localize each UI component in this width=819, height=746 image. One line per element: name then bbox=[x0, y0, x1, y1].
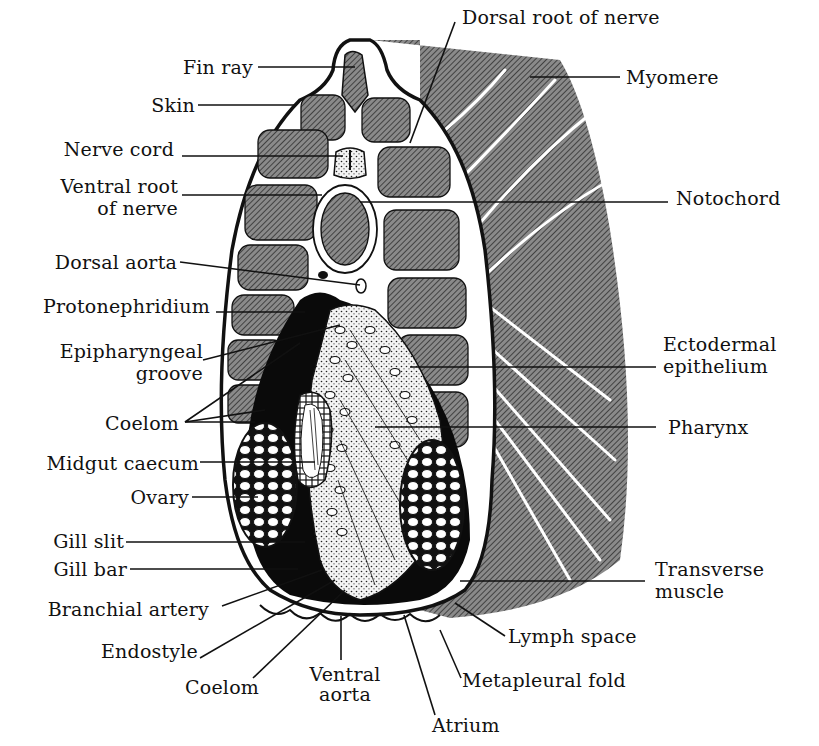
label-gill-slit: Gill slit bbox=[53, 530, 124, 552]
label-epipharyngeal-groove: Epipharyngeal groove bbox=[60, 340, 203, 384]
label-coelom-lower: Coelom bbox=[185, 676, 259, 698]
label-endostyle: Endostyle bbox=[101, 640, 198, 662]
label-protonephridium: Protonephridium bbox=[43, 295, 210, 317]
ovary-shape-left bbox=[233, 423, 297, 547]
label-branchial-artery: Branchial artery bbox=[48, 598, 209, 620]
nerve-cord-shape bbox=[334, 148, 366, 179]
label-lymph-space: Lymph space bbox=[508, 625, 637, 647]
label-nerve-cord: Nerve cord bbox=[64, 138, 174, 160]
notochord-shape bbox=[313, 185, 377, 273]
label-dorsal-root-of-nerve: Dorsal root of nerve bbox=[462, 6, 660, 28]
label-transverse-line2: muscle bbox=[655, 580, 764, 602]
label-ventral-aorta-line1: Ventral bbox=[305, 664, 385, 684]
label-transverse-muscle: Transverse muscle bbox=[655, 558, 764, 602]
label-fin-ray: Fin ray bbox=[183, 56, 253, 78]
label-ventral-aorta-line2: aorta bbox=[305, 684, 385, 704]
label-ventral-root-line2: of nerve bbox=[60, 197, 178, 219]
label-atrium: Atrium bbox=[432, 714, 500, 736]
label-ectodermal-line2: epithelium bbox=[663, 355, 777, 377]
ovary-shape-right bbox=[400, 440, 464, 570]
label-ventral-root-of-nerve: Ventral root of nerve bbox=[60, 175, 178, 219]
label-epipharyngeal-line2: groove bbox=[60, 362, 203, 384]
label-ovary: Ovary bbox=[131, 486, 189, 508]
label-pharynx: Pharynx bbox=[668, 416, 749, 438]
label-ectodermal-line1: Ectodermal bbox=[663, 333, 777, 355]
label-gill-bar: Gill bar bbox=[53, 558, 127, 580]
label-myomere: Myomere bbox=[626, 66, 719, 88]
midgut-caecum-shape bbox=[294, 392, 331, 487]
label-epipharyngeal-line1: Epipharyngeal bbox=[60, 340, 203, 362]
label-transverse-line1: Transverse bbox=[655, 558, 764, 580]
label-ectodermal-epithelium: Ectodermal epithelium bbox=[663, 333, 777, 377]
label-notochord: Notochord bbox=[676, 187, 781, 209]
label-dorsal-aorta: Dorsal aorta bbox=[55, 251, 177, 273]
label-midgut-caecum: Midgut caecum bbox=[47, 452, 199, 474]
label-metapleural-fold: Metapleural fold bbox=[462, 669, 626, 691]
label-coelom-upper: Coelom bbox=[105, 412, 179, 434]
label-ventral-aorta: Ventral aorta bbox=[305, 664, 385, 704]
label-ventral-root-line1: Ventral root bbox=[60, 175, 178, 197]
label-skin: Skin bbox=[151, 94, 195, 116]
